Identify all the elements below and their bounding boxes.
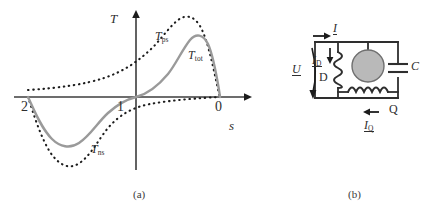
label-voltage-u: U (292, 63, 301, 76)
label-capacitor-c: C (411, 60, 419, 72)
x-tick-0: 0 (215, 100, 222, 114)
chart-panel-a: T s 2 1 0 Tps Ttot Tns (a) (0, 0, 280, 212)
x-tick-2: 2 (21, 100, 28, 114)
curve-label-t-ns: Tns (91, 143, 105, 155)
machine-symbol (352, 50, 384, 82)
curve-t-ns (28, 97, 220, 166)
caption-b: (b) (348, 188, 361, 200)
capacitor-c (388, 64, 408, 72)
label-current-iq: IQ (364, 119, 374, 132)
current-arrow-iq (363, 108, 379, 115)
curve-label-t-tot: Ttot (188, 49, 203, 61)
inductor-d (334, 52, 342, 88)
circuit-panel-b: I ID D U C Q IQ (b) (280, 0, 430, 212)
x-axis-label: s (229, 119, 234, 132)
label-node-d: D (319, 71, 328, 83)
label-current-id: ID (312, 54, 322, 67)
caption-a: (a) (133, 188, 145, 200)
figure-root: T s 2 1 0 Tps Ttot Tns (a) (0, 0, 430, 212)
curve-label-t-ps: Tps (155, 30, 169, 42)
y-axis (132, 10, 140, 170)
current-arrow-i (313, 32, 331, 39)
label-current-i: I (333, 22, 337, 35)
torque-slip-chart (0, 0, 280, 185)
current-arrow-id (327, 48, 334, 64)
circuit-diagram (280, 0, 430, 185)
x-tick-1: 1 (117, 100, 124, 114)
label-node-q: Q (389, 103, 398, 115)
y-axis-label: T (110, 12, 117, 25)
